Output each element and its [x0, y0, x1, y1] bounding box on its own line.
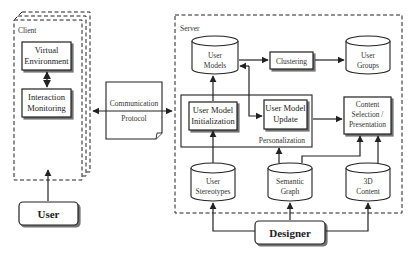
- interaction-monitoring-line1: Interaction: [28, 92, 66, 102]
- 3d-content-line1: 3D: [363, 177, 373, 186]
- semantic-graph-to-content-selection-arrow: [302, 136, 360, 163]
- user-groups-db: User Groups: [346, 36, 390, 74]
- user-groups-line1: User: [361, 51, 376, 60]
- user-model-update-line1: User Model: [265, 103, 306, 113]
- content-selection-box: Content Selection / Presentation: [344, 97, 391, 134]
- server-label: Server: [180, 24, 200, 33]
- user-models-line2: Models: [204, 61, 227, 70]
- user-models-line1: User: [208, 51, 223, 60]
- interaction-monitoring-box: Interaction Monitoring: [22, 89, 71, 117]
- user-stereotypes-db: User Stereotypes: [191, 163, 235, 201]
- user-models-db: User Models: [192, 36, 238, 74]
- user-groups-line2: Groups: [357, 61, 379, 70]
- 3d-content-line2: Content: [356, 187, 381, 196]
- virtual-environment-box: Virtual Environment: [22, 42, 71, 70]
- architecture-diagram: Client Virtual Environment Interaction M…: [0, 0, 409, 259]
- user-model-update-box: User Model Update: [264, 100, 307, 129]
- user-stereotypes-line2: Stereotypes: [196, 187, 231, 196]
- semantic-graph-line2: Graph: [281, 187, 300, 196]
- user-models-to-update-arrow: [249, 66, 262, 116]
- clustering-box: Clustering: [270, 52, 313, 69]
- virtual-environment-line1: Virtual: [35, 45, 59, 55]
- semantic-graph-db: Semantic Graph: [268, 163, 312, 201]
- communication-protocol-line2: Protocol: [121, 114, 146, 123]
- content-selection-line1: Content: [356, 100, 381, 109]
- user-model-initialization-line2: Initialization: [191, 116, 235, 126]
- user-model-update-line2: Update: [273, 114, 298, 124]
- 3d-content-db: 3D Content: [346, 163, 390, 201]
- clustering-label: Clustering: [276, 57, 307, 66]
- user-stereotypes-line1: User: [206, 177, 221, 186]
- interaction-monitoring-line2: Monitoring: [27, 103, 66, 113]
- content-selection-line2: Selection /: [352, 110, 385, 119]
- user-box: User: [19, 202, 78, 225]
- virtual-environment-line2: Environment: [24, 56, 69, 66]
- personalization-label: Personalization: [259, 136, 305, 145]
- user-model-initialization-line1: User Model: [193, 105, 234, 115]
- designer-to-stereotypes-arrow: [213, 203, 255, 231]
- semantic-graph-line1: Semantic: [276, 177, 305, 186]
- designer-box: Designer: [255, 221, 325, 244]
- designer-label: Designer: [269, 227, 311, 239]
- communication-protocol-line1: Communication: [110, 99, 159, 108]
- client-label: Client: [18, 26, 37, 35]
- user-model-initialization-box: User Model Initialization: [189, 102, 237, 130]
- designer-to-3d-content-arrow: [326, 203, 368, 231]
- user-label: User: [38, 208, 60, 220]
- content-selection-line3: Presentation: [349, 120, 386, 129]
